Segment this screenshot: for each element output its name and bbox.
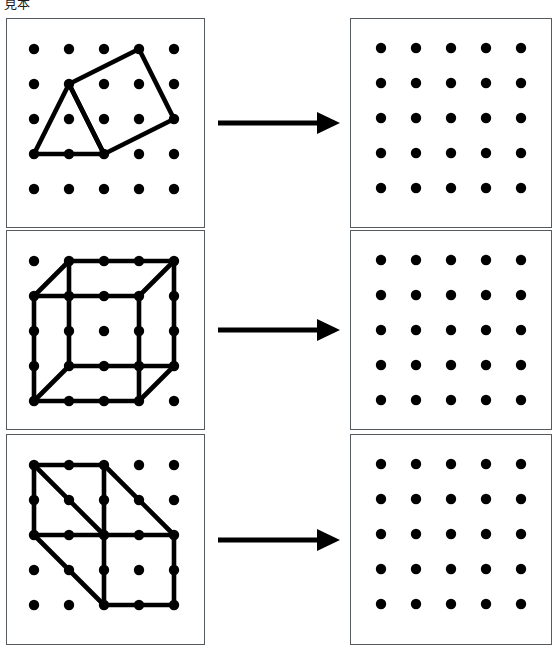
grid-dot: [29, 361, 39, 371]
grid-dot: [134, 256, 144, 266]
grid-dot: [169, 460, 179, 470]
page-title: 見本: [4, 0, 30, 11]
right-arrow-canvas: [205, 230, 350, 430]
grid-dot: [411, 395, 421, 405]
grid-dot: [99, 495, 109, 505]
grid-dot: [134, 114, 144, 124]
grid-dot: [64, 256, 74, 266]
grid-dot: [411, 360, 421, 370]
grid-dot: [481, 529, 491, 539]
figure-panel-cube-canvas: [7, 231, 203, 428]
grid-dot: [99, 460, 109, 470]
grid-dot: [411, 494, 421, 504]
figure-panel-triangle-square[interactable]: [6, 18, 205, 228]
arrow-head: [317, 319, 340, 341]
answer-panel-blank-grid-canvas: [351, 435, 550, 643]
grid-dot: [516, 459, 526, 469]
grid-dot: [99, 565, 109, 575]
right-arrow-canvas: [205, 434, 350, 645]
grid-dot: [446, 290, 456, 300]
arrow-head: [317, 529, 340, 551]
grid-dot: [376, 395, 386, 405]
grid-dot: [446, 325, 456, 335]
grid-dot: [411, 325, 421, 335]
answer-panel-blank-grid-3[interactable]: [350, 434, 552, 645]
grid-dot: [411, 78, 421, 88]
grid-dot: [376, 148, 386, 158]
grid-dot: [29, 495, 39, 505]
grid-dot: [64, 600, 74, 610]
worksheet-row-2: [0, 230, 557, 430]
grid-dot: [411, 529, 421, 539]
answer-panel-blank-grid-1[interactable]: [350, 18, 552, 228]
grid-dot: [169, 79, 179, 89]
grid-dot: [446, 113, 456, 123]
grid-dot: [169, 565, 179, 575]
grid-dot: [99, 361, 109, 371]
grid-dot: [481, 290, 491, 300]
grid-dot: [446, 599, 456, 609]
tilted-square: [69, 49, 174, 154]
grid-dot: [411, 113, 421, 123]
grid-dot: [516, 255, 526, 265]
grid-dot: [29, 184, 39, 194]
grid-dot: [134, 460, 144, 470]
grid-dot: [169, 114, 179, 124]
right-arrow-canvas: [205, 18, 350, 228]
arrow-cell-2: [205, 230, 350, 430]
grid-dot: [64, 326, 74, 336]
grid-dot: [99, 184, 109, 194]
arrow-cell-1: [205, 18, 350, 228]
grid-dot: [376, 325, 386, 335]
grid-dot: [29, 396, 39, 406]
grid-dot: [169, 291, 179, 301]
grid-dot: [516, 564, 526, 574]
grid-dot: [169, 149, 179, 159]
grid-dot: [64, 361, 74, 371]
grid-dot: [516, 529, 526, 539]
grid-dot: [516, 43, 526, 53]
grid-dot: [29, 291, 39, 301]
grid-dot: [134, 291, 144, 301]
arrow-shaft: [218, 328, 317, 333]
grid-dot: [169, 256, 179, 266]
answer-panel-blank-grid-2[interactable]: [350, 230, 552, 430]
grid-dot: [134, 396, 144, 406]
arrow-shaft: [218, 538, 317, 543]
arrow-head: [317, 112, 340, 134]
grid-dot: [64, 565, 74, 575]
grid-dot: [446, 183, 456, 193]
grid-dot: [29, 256, 39, 266]
grid-dot: [481, 113, 491, 123]
grid-dot: [99, 396, 109, 406]
grid-dot: [446, 78, 456, 88]
grid-dot: [411, 43, 421, 53]
grid-dot: [134, 495, 144, 505]
grid-dot: [376, 494, 386, 504]
answer-panel-blank-grid-canvas: [351, 231, 550, 428]
grid-dot: [481, 255, 491, 265]
grid-dot: [516, 360, 526, 370]
grid-dot: [134, 326, 144, 336]
grid-dot: [481, 395, 491, 405]
grid-dot: [134, 184, 144, 194]
grid-dot: [481, 78, 491, 88]
grid-dot: [64, 79, 74, 89]
grid-dot: [169, 361, 179, 371]
figure-panel-cube[interactable]: [6, 230, 205, 430]
grid-dot: [99, 114, 109, 124]
grid-dot: [481, 599, 491, 609]
grid-dot: [516, 290, 526, 300]
figure-panel-triangle-square-canvas: [7, 19, 203, 226]
grid-dot: [29, 44, 39, 54]
grid-dot: [64, 114, 74, 124]
figure-panel-rectangular-prism[interactable]: [6, 434, 205, 645]
grid-dot: [411, 290, 421, 300]
grid-dot: [376, 360, 386, 370]
grid-dot: [481, 564, 491, 574]
grid-dot: [134, 565, 144, 575]
grid-dot: [29, 149, 39, 159]
answer-panel-blank-grid-canvas: [351, 19, 550, 226]
grid-dot: [64, 460, 74, 470]
grid-dot: [64, 530, 74, 540]
